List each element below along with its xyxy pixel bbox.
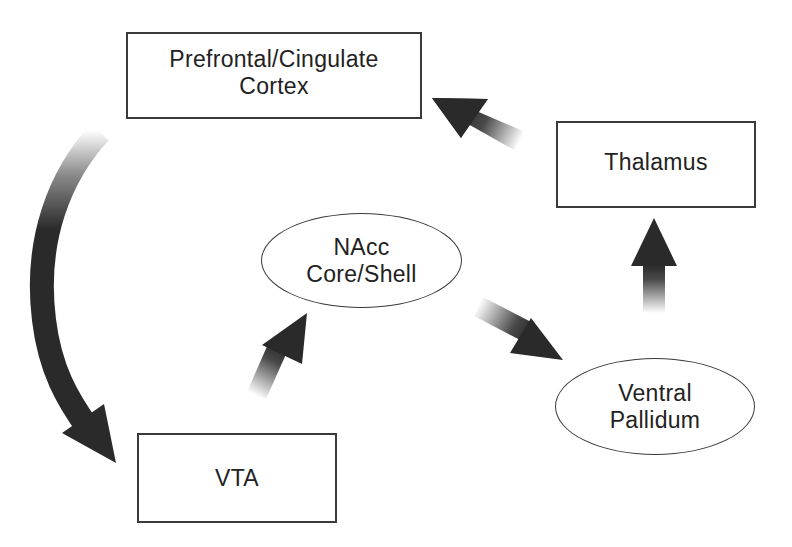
arrow-cortex-to-vta [42,132,116,463]
node-vta: VTA [137,433,337,523]
node-label-line: VTA [215,465,259,492]
node-label-line: Ventral [618,380,692,407]
arrow-vta-to-nacc [247,313,307,399]
node-ventral-pallidum: Ventral Pallidum [555,358,755,455]
node-label-line: NAcc [333,234,389,261]
node-label-line: Cortex [239,73,309,100]
node-label-line: Prefrontal/Cingulate [169,46,378,73]
node-prefrontal-cingulate-cortex: Prefrontal/Cingulate Cortex [126,32,422,119]
arrow-thalamus-to-cortex [432,98,523,151]
arrow-nacc-to-vp [474,297,563,360]
node-nacc-core-shell: NAcc Core/Shell [261,213,462,308]
node-label-line: Thalamus [604,149,707,176]
node-label-line: Core/Shell [306,261,416,288]
node-thalamus: Thalamus [556,121,756,208]
arrow-vp-to-thalamus [631,218,677,314]
node-label-line: Pallidum [610,407,701,434]
